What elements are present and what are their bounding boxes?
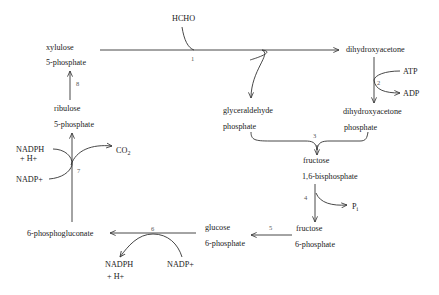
- xylulose-label: xylulose: [46, 43, 74, 52]
- nadp-nadph-6-curve: [120, 234, 182, 257]
- step-6: 6: [151, 225, 155, 232]
- step-7: 7: [77, 167, 81, 174]
- step-2: 2: [377, 79, 380, 86]
- nadph-6-label: NADPH: [105, 260, 133, 269]
- nadp-7-label: NADP+: [16, 175, 43, 184]
- pi-label: Pi: [352, 202, 359, 212]
- co2-label: CO2: [116, 146, 130, 156]
- pathway-diagram: HCHO xylulose 5-phosphate dihydroxyaceto…: [0, 0, 439, 295]
- gap-phosphate-label: phosphate: [223, 122, 257, 131]
- f6p-label: fructose: [296, 224, 323, 233]
- adp-label: ADP: [403, 89, 420, 98]
- phosphogluconate-label: 6-phosphogluconate: [27, 229, 94, 238]
- nadph-6-h-label: + H+: [107, 272, 125, 281]
- gap-branch-arrow: [250, 50, 267, 98]
- dihydroxyacetone-label: dihydroxyacetone: [346, 45, 405, 54]
- hcho-input-curve: [182, 27, 194, 50]
- step-4: 4: [304, 194, 308, 201]
- xylulose-phosphate-label: 5-phosphate: [46, 58, 86, 67]
- dhap-label: dihydroxyacetone: [343, 107, 402, 116]
- gap-label: glyceraldehyde: [223, 106, 273, 115]
- co2-release-curve: [71, 146, 112, 165]
- pi-release-curve: [316, 193, 347, 205]
- nadph-7-h-label: + H+: [20, 154, 38, 163]
- reaction-3-brace: [251, 132, 368, 150]
- fbp-label: fructose: [303, 156, 330, 165]
- fbp-bisphosphate-label: 1,6-bisphosphate: [302, 172, 358, 181]
- ribulose-phosphate-label: 5-phosphate: [54, 120, 94, 129]
- nadph-7-label: NADPH: [16, 145, 44, 154]
- g6p-phosphate-label: 6-phosphate: [205, 239, 245, 248]
- step-5: 5: [269, 224, 272, 231]
- step-8: 8: [76, 80, 79, 87]
- step-1: 1: [191, 55, 194, 62]
- nadp-nadph-7-curve: [49, 149, 72, 179]
- f6p-phosphate-label: 6-phosphate: [295, 240, 335, 249]
- atp-label: ATP: [403, 67, 418, 76]
- step-3: 3: [313, 132, 316, 139]
- g6p-label: glucose: [205, 223, 230, 232]
- nadp-6-label: NADP+: [167, 260, 194, 269]
- ribulose-label: ribulose: [54, 104, 81, 113]
- hcho-label: HCHO: [172, 14, 195, 23]
- dhap-phosphate-label: phosphate: [344, 123, 378, 132]
